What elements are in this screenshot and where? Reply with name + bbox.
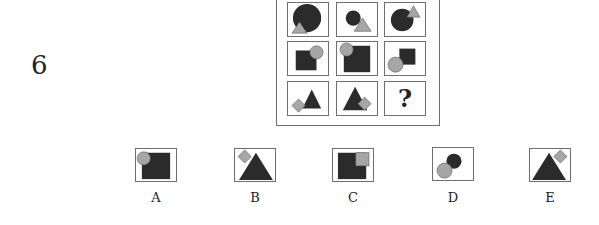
question-mark: ? (385, 82, 425, 115)
option-b-label[interactable]: B (245, 190, 265, 205)
circle-circle-icon (433, 148, 473, 180)
grid-cell-r2c3 (384, 41, 426, 76)
option-b-figure[interactable] (234, 148, 276, 182)
square-square-icon (333, 149, 373, 181)
circle-triangle-icon (385, 3, 425, 36)
option-e-label[interactable]: E (540, 190, 560, 205)
option-d-label[interactable]: D (443, 190, 463, 205)
square-circle-icon (337, 42, 377, 75)
grid-cell-r1c1 (287, 2, 329, 37)
question-number: 6 (31, 52, 48, 78)
matrix-frame: ? (276, 0, 440, 126)
grid-cell-r3c1 (287, 81, 329, 116)
option-a-figure[interactable] (135, 148, 177, 182)
grid-cell-r1c2 (336, 2, 378, 37)
option-c-figure[interactable] (332, 148, 374, 182)
grid-cell-r2c2 (336, 41, 378, 76)
triangle-diamond-icon (288, 82, 328, 115)
triangle-diamond-icon (530, 149, 570, 181)
square-circle-icon (136, 149, 176, 181)
option-d-figure[interactable] (432, 147, 474, 181)
grid-cell-r3c2 (336, 81, 378, 116)
triangle-diamond-icon (235, 149, 275, 181)
option-a-label[interactable]: A (146, 190, 166, 205)
triangle-diamond-icon (337, 82, 377, 115)
square-circle-icon (385, 42, 425, 75)
grid-cell-missing: ? (384, 81, 426, 116)
grid-cell-r2c1 (287, 41, 329, 76)
option-e-figure[interactable] (529, 148, 571, 182)
square-circle-icon (288, 42, 328, 75)
grid-cell-r1c3 (384, 2, 426, 37)
circle-triangle-icon (288, 3, 328, 36)
circle-triangle-icon (337, 3, 377, 36)
option-c-label[interactable]: C (343, 190, 363, 205)
